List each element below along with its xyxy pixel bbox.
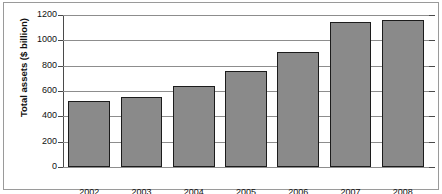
x-axis-tick-label-2008: 2008 [377,187,429,194]
y-axis-tick [58,142,63,143]
bar-2004 [173,86,215,167]
y-axis-tick [58,91,63,92]
y-axis-tick-label: 1000 [11,34,57,44]
y-axis-tick-label-wrap: 400 [5,116,57,117]
bar-2005 [225,71,267,167]
x-axis-tick-label-2007: 2007 [324,187,376,194]
y-axis-tick-right [429,142,435,143]
gridline [63,167,429,168]
bar-chart-figure: Total assets ($ billion) 020040060080010… [0,0,442,194]
y-axis-tick [58,116,63,117]
bar-2006 [277,52,319,167]
x-axis-tick-label-2003: 2003 [115,187,167,194]
bar-2007 [330,22,372,167]
y-axis-tick-right [429,66,435,67]
x-axis-tick-label-2005: 2005 [220,187,272,194]
y-axis-tick-label-wrap: 600 [5,91,57,92]
gridline [63,40,429,41]
gridline [63,66,429,67]
y-axis-tick-label: 200 [11,136,57,146]
x-axis-tick-label-2004: 2004 [168,187,220,194]
y-axis-tick [58,167,63,168]
y-axis-tick-label-wrap: 0 [5,167,57,168]
y-axis-tick [58,40,63,41]
y-axis-tick-right [429,116,435,117]
y-axis-tick [58,66,63,67]
bar-2002 [68,101,110,167]
y-axis-tick-label-wrap: 1000 [5,40,57,41]
y-axis-tick-label: 0 [11,161,57,171]
y-axis-tick-right [429,15,435,16]
y-axis-tick-right [429,167,435,168]
bar-2008 [382,20,424,167]
y-axis-tick [58,15,63,16]
plot-area: 0200400600800100012002002200320042005200… [63,15,429,167]
x-axis-tick-label-2006: 2006 [272,187,324,194]
y-axis-tick-right [429,40,435,41]
y-axis-tick-label: 400 [11,110,57,120]
y-axis-tick-label-wrap: 1200 [5,15,57,16]
y-axis-tick-right [429,91,435,92]
x-axis-tick-label-2002: 2002 [63,187,115,194]
y-axis-tick-label-wrap: 200 [5,142,57,143]
bar-2003 [121,97,163,167]
y-axis-tick-label: 800 [11,60,57,70]
gridline [63,15,429,16]
y-axis-tick-label: 1200 [11,9,57,19]
y-axis-tick-label: 600 [11,85,57,95]
y-axis-tick-label-wrap: 800 [5,66,57,67]
